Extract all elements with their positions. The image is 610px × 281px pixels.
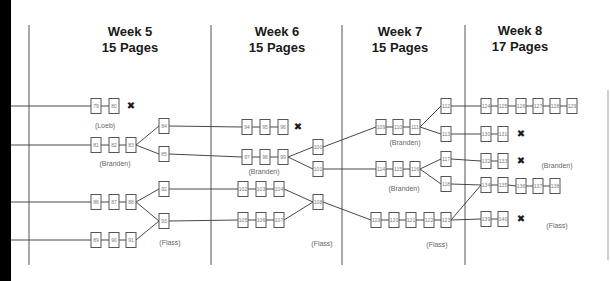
page-node-number: 128 xyxy=(551,103,560,109)
page-node-86: 86 xyxy=(91,195,101,210)
page-node-140: 140 xyxy=(498,212,508,227)
page-node-108: 108 xyxy=(313,195,323,210)
page-node-131: 131 xyxy=(498,127,508,142)
page-node-102: 102 xyxy=(238,182,248,197)
page-node-119: 119 xyxy=(371,213,381,228)
author-label: (Branden) xyxy=(389,139,420,147)
author-label: (Branden) xyxy=(99,160,130,168)
page-node-number: 101 xyxy=(314,166,323,172)
connector-83-85 xyxy=(136,145,159,154)
page-node-96: 96 xyxy=(278,120,288,135)
page-node-number: 87 xyxy=(111,199,117,205)
page-node-number: 96 xyxy=(280,124,286,130)
page-node-83: 83 xyxy=(126,138,136,153)
page-node-113: 113 xyxy=(441,127,451,142)
page-node-number: 137 xyxy=(534,183,543,189)
page-node-number: 117 xyxy=(442,156,450,162)
page-node-122: 122 xyxy=(424,213,434,228)
connector-118-134 xyxy=(451,184,481,185)
page-node-number: 115 xyxy=(394,166,402,172)
page-node-82: 82 xyxy=(109,138,119,153)
end-x-icon: ✖ xyxy=(517,213,525,224)
page-node-104: 104 xyxy=(274,182,284,197)
page-node-116: 116 xyxy=(410,162,420,177)
page-node-number: 91 xyxy=(128,237,134,243)
page-node-101: 101 xyxy=(313,162,323,177)
connector-99-101 xyxy=(288,157,313,169)
page-node-115: 115 xyxy=(393,162,403,177)
page-node-number: 88 xyxy=(128,199,134,205)
page-node-89: 89 xyxy=(91,233,101,248)
page-node-number: 95 xyxy=(262,124,268,130)
author-label: (Flass) xyxy=(426,241,447,249)
page-node-97: 97 xyxy=(242,150,252,165)
connector-116-118 xyxy=(420,169,441,184)
page-node-90: 90 xyxy=(109,233,119,248)
page-node-number: 135 xyxy=(499,182,508,188)
page-node-103: 103 xyxy=(256,182,266,197)
page-node-84: 84 xyxy=(159,119,169,134)
page-node-number: 80 xyxy=(111,103,117,109)
connector-83-84 xyxy=(136,126,159,145)
page-node-125: 125 xyxy=(498,99,508,114)
connector-135-136 xyxy=(508,185,516,186)
page-node-number: 139 xyxy=(482,216,491,222)
page-node-87: 87 xyxy=(109,195,119,210)
page-node-123: 123 xyxy=(441,213,451,228)
page-node-number: 100 xyxy=(314,144,323,150)
connector-edges xyxy=(101,106,567,240)
author-label: (Branden) xyxy=(388,185,419,193)
end-x-icon: ✖ xyxy=(127,100,135,111)
connector-107-108 xyxy=(284,202,313,220)
page-node-139: 139 xyxy=(481,212,491,227)
page-node-93: 93 xyxy=(159,214,169,229)
page-node-120: 120 xyxy=(389,213,399,228)
end-x-icon: ✖ xyxy=(294,121,302,132)
page-node-number: 134 xyxy=(482,182,491,188)
page-node-number: 130 xyxy=(482,131,491,137)
author-label: (Flass) xyxy=(311,240,332,248)
author-label: (Flass) xyxy=(159,239,180,247)
flow-diagram: 7980818283848586878889909192939495969798… xyxy=(0,0,610,281)
page-node-106: 106 xyxy=(256,213,266,228)
page-node-105: 105 xyxy=(238,213,248,228)
page-node-number: 82 xyxy=(111,142,117,148)
connector-88-93 xyxy=(136,202,159,221)
page-node-number: 83 xyxy=(128,142,134,148)
page-node-number: 133 xyxy=(499,158,508,164)
page-node-124: 124 xyxy=(481,99,491,114)
page-node-number: 136 xyxy=(517,183,526,189)
page-node-92: 92 xyxy=(159,182,169,197)
connector-84-94 xyxy=(169,126,242,127)
author-label: (Loeb) xyxy=(95,122,115,130)
page-node-80: 80 xyxy=(109,99,119,114)
end-x-icon: ✖ xyxy=(517,128,525,139)
page-node-126: 126 xyxy=(516,99,526,114)
page-node-128: 128 xyxy=(550,99,560,114)
page-node-number: 110 xyxy=(394,124,402,130)
page-node-number: 132 xyxy=(482,158,491,164)
page-node-number: 107 xyxy=(275,217,284,223)
page-node-98: 98 xyxy=(260,150,270,165)
connector-123-139 xyxy=(451,219,481,220)
page-node-number: 123 xyxy=(442,217,451,223)
connector-111-112 xyxy=(420,106,441,127)
page-node-number: 124 xyxy=(482,103,491,109)
page-node-107: 107 xyxy=(274,213,284,228)
page-node-number: 97 xyxy=(244,154,250,160)
diagram-canvas: Week 5 15 Pages Week 6 15 Pages Week 7 1… xyxy=(0,0,610,281)
page-node-130: 130 xyxy=(481,127,491,142)
page-node-number: 104 xyxy=(275,186,284,192)
page-node-114: 114 xyxy=(376,162,386,177)
connector-91-93 xyxy=(136,221,159,240)
page-node-number: 111 xyxy=(411,124,419,130)
incoming-lines xyxy=(11,106,91,240)
page-node-number: 99 xyxy=(280,154,286,160)
page-node-118: 118 xyxy=(441,177,451,192)
connector-104-108 xyxy=(284,189,313,202)
page-node-95: 95 xyxy=(260,120,270,135)
page-node-number: 79 xyxy=(93,103,99,109)
page-node-number: 109 xyxy=(377,124,386,130)
page-node-134: 134 xyxy=(481,178,491,193)
connector-88-92 xyxy=(136,189,159,202)
